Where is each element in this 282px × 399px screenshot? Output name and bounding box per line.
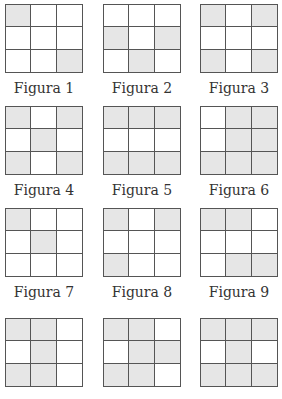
empty-cell xyxy=(252,341,277,363)
shaded-cell xyxy=(155,209,180,231)
empty-cell xyxy=(6,254,31,276)
empty-cell xyxy=(252,209,277,231)
empty-cell xyxy=(129,27,154,49)
empty-cell xyxy=(6,50,31,72)
empty-cell xyxy=(57,319,82,341)
empty-cell xyxy=(6,129,31,151)
shaded-cell xyxy=(201,152,226,174)
empty-cell xyxy=(129,209,154,231)
empty-cell xyxy=(129,129,154,151)
shaded-cell xyxy=(252,107,277,129)
figure-grid-2 xyxy=(103,4,181,73)
shaded-cell xyxy=(6,5,31,27)
empty-cell xyxy=(155,5,180,27)
figure-label: Figura 4 xyxy=(0,182,91,198)
empty-cell xyxy=(6,341,31,363)
shaded-cell xyxy=(252,129,277,151)
figure-grid-3 xyxy=(200,4,278,73)
empty-cell xyxy=(31,254,56,276)
figure-label: Figura 1 xyxy=(0,80,91,96)
empty-cell xyxy=(31,209,56,231)
shaded-cell xyxy=(201,364,226,386)
figure-grid-11 xyxy=(103,318,181,387)
empty-cell xyxy=(31,152,56,174)
empty-cell xyxy=(129,5,154,27)
empty-cell xyxy=(57,27,82,49)
shaded-cell xyxy=(6,364,31,386)
empty-cell xyxy=(104,129,129,151)
empty-cell xyxy=(31,27,56,49)
empty-cell xyxy=(201,231,226,253)
empty-cell xyxy=(129,231,154,253)
empty-cell xyxy=(57,364,82,386)
figure-grid-8 xyxy=(103,208,181,277)
shaded-cell xyxy=(201,319,226,341)
shaded-cell xyxy=(155,27,180,49)
shaded-cell xyxy=(226,107,251,129)
shaded-cell xyxy=(129,152,154,174)
shaded-cell xyxy=(129,364,154,386)
shaded-cell xyxy=(226,254,251,276)
empty-cell xyxy=(201,27,226,49)
empty-cell xyxy=(226,27,251,49)
shaded-cell xyxy=(31,129,56,151)
shaded-cell xyxy=(155,107,180,129)
shaded-cell xyxy=(31,319,56,341)
shaded-cell xyxy=(252,364,277,386)
shaded-cell xyxy=(104,364,129,386)
shaded-cell xyxy=(57,107,82,129)
figure-grid-4 xyxy=(5,106,83,175)
shaded-cell xyxy=(31,341,56,363)
figure-label: Figura 7 xyxy=(0,284,91,300)
shaded-cell xyxy=(104,27,129,49)
empty-cell xyxy=(57,341,82,363)
shaded-cell xyxy=(104,152,129,174)
empty-cell xyxy=(155,254,180,276)
shaded-cell xyxy=(226,129,251,151)
figure-grid-9 xyxy=(200,208,278,277)
shaded-cell xyxy=(252,319,277,341)
empty-cell xyxy=(252,231,277,253)
shaded-cell xyxy=(226,152,251,174)
shaded-cell xyxy=(129,107,154,129)
empty-cell xyxy=(31,5,56,27)
figure-label: Figura 8 xyxy=(95,284,189,300)
empty-cell xyxy=(155,231,180,253)
figure-label: Figura 6 xyxy=(192,182,282,198)
shaded-cell xyxy=(155,341,180,363)
empty-cell xyxy=(57,254,82,276)
empty-cell xyxy=(104,50,129,72)
shaded-cell xyxy=(104,319,129,341)
shaded-cell xyxy=(6,319,31,341)
empty-cell xyxy=(201,107,226,129)
shaded-cell xyxy=(252,50,277,72)
empty-cell xyxy=(104,5,129,27)
empty-cell xyxy=(57,5,82,27)
empty-cell xyxy=(155,50,180,72)
empty-cell xyxy=(57,209,82,231)
shaded-cell xyxy=(252,152,277,174)
shaded-cell xyxy=(226,319,251,341)
shaded-cell xyxy=(226,341,251,363)
empty-cell xyxy=(155,364,180,386)
empty-cell xyxy=(6,27,31,49)
shaded-cell xyxy=(57,152,82,174)
figure-grid-1 xyxy=(5,4,83,73)
figure-label: Figura 3 xyxy=(192,80,282,96)
shaded-cell xyxy=(252,254,277,276)
empty-cell xyxy=(57,231,82,253)
figure-grid-6 xyxy=(200,106,278,175)
empty-cell xyxy=(6,231,31,253)
empty-cell xyxy=(31,50,56,72)
shaded-cell xyxy=(155,152,180,174)
empty-cell xyxy=(155,319,180,341)
shaded-cell xyxy=(129,319,154,341)
shaded-cell xyxy=(129,50,154,72)
shaded-cell xyxy=(31,231,56,253)
shaded-cell xyxy=(104,209,129,231)
shaded-cell xyxy=(6,107,31,129)
empty-cell xyxy=(31,107,56,129)
shaded-cell xyxy=(104,254,129,276)
figure-grid-10 xyxy=(5,318,83,387)
figure-grid-12 xyxy=(200,318,278,387)
